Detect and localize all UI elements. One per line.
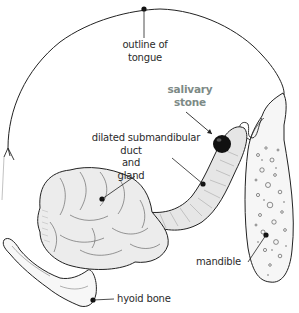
label-duct-line1: dilated submandibular	[84, 132, 208, 145]
label-outline-of-tongue: outline of tongue	[116, 39, 174, 64]
label-duct-line2: duct	[54, 145, 208, 158]
label-stone-line2: stone	[160, 96, 220, 109]
label-hyoid-bone: hyoid bone	[117, 293, 171, 306]
label-dilated-duct-and-gland: dilated submandibular duct and gland	[84, 132, 208, 182]
mandible	[245, 93, 293, 282]
label-mandible: mandible	[196, 256, 241, 269]
label-stone-line1: salivary	[160, 83, 220, 96]
label-duct-line3: and	[54, 157, 208, 170]
label-duct-line4: gland	[54, 170, 208, 183]
label-tongue-line2: tongue	[116, 52, 174, 65]
label-tongue-line1: outline of	[116, 39, 174, 52]
label-salivary-stone: salivary stone	[160, 83, 220, 108]
